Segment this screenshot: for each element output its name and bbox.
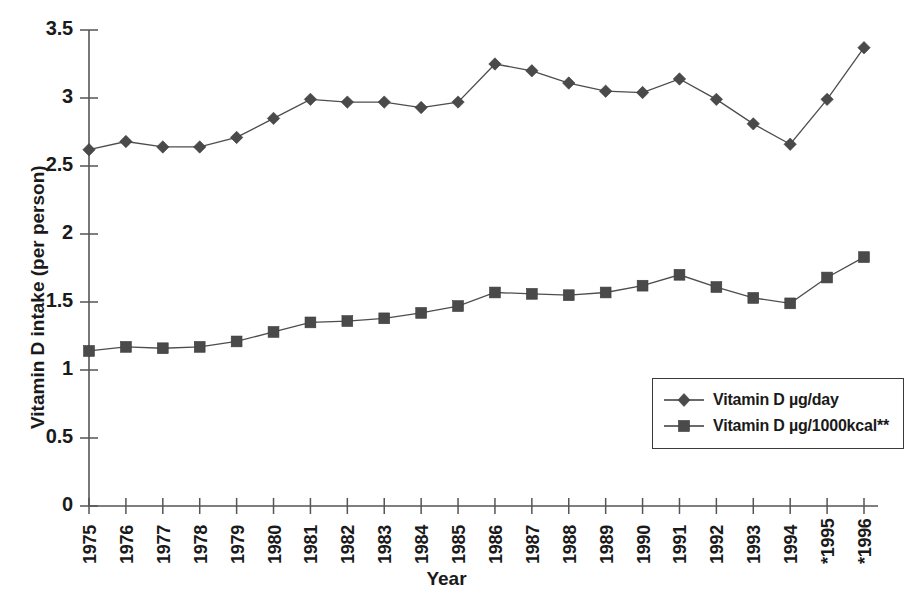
data-point-marker [157,343,168,354]
data-series [83,41,870,356]
data-point-marker [563,290,574,301]
data-point-marker [378,96,390,108]
data-point-marker [194,341,205,352]
data-point-marker [673,73,685,85]
data-point-marker [304,93,316,105]
x-tick-label: 1976 [117,525,138,564]
data-point-marker [267,112,279,124]
data-point-marker [83,143,95,155]
data-point-marker [120,135,132,147]
series-1 [83,41,870,155]
data-point-marker [84,346,95,357]
series-polyline [89,48,864,150]
x-tick-label: 1979 [228,525,249,564]
legend-item-vitamin-d-per-day: Vitamin D µg/day [663,387,889,413]
data-point-marker [342,316,353,327]
data-point-marker [526,288,537,299]
x-tick-label: 1985 [449,525,470,564]
data-point-marker [637,280,648,291]
legend-item-vitamin-d-per-1000kcal: Vitamin D µg/1000kcal** [663,413,889,439]
x-tick-label: 1975 [80,525,101,564]
x-tick-label: 1992 [707,525,728,564]
x-tick-label: 1978 [191,525,212,564]
x-tick-label: 1990 [634,525,655,564]
data-point-marker [747,118,759,130]
data-point-marker [230,131,242,143]
data-point-marker [490,287,501,298]
series-2 [84,252,870,357]
y-tick-label: 3.5 [0,17,73,40]
data-point-marker [600,287,611,298]
x-tick-label: 1991 [670,525,691,564]
x-tick-label: 1994 [781,525,802,564]
x-tick-label: 1980 [265,525,286,564]
data-point-marker [822,272,833,283]
data-point-marker [415,101,427,113]
data-point-marker [121,341,132,352]
x-tick-label: *1996 [855,518,876,564]
square-marker-icon [663,418,705,434]
data-point-marker [379,313,390,324]
data-point-marker [268,327,279,338]
data-point-marker [194,141,206,153]
x-axis-title: Year [0,568,893,590]
data-point-marker [599,85,611,97]
data-point-marker [526,65,538,77]
y-tick-label: 0 [0,493,73,516]
y-tick-label: 3 [0,85,73,108]
x-tick-label: 1986 [486,525,507,564]
data-point-marker [453,301,464,312]
x-tick-label: 1977 [154,525,175,564]
x-tick-label: 1988 [560,525,581,564]
x-tick-label: 1984 [412,525,433,564]
x-tick-label: 1982 [338,525,359,564]
data-point-marker [416,307,427,318]
data-point-marker [231,336,242,347]
y-axis-title: Vitamin D intake (per person) [27,169,49,429]
data-point-marker [748,293,759,304]
legend-label: Vitamin D µg/day [713,391,839,409]
data-point-marker [157,141,169,153]
x-tick-label: 1983 [375,525,396,564]
data-point-marker [341,96,353,108]
data-point-marker [674,269,685,280]
series-polyline [89,257,864,351]
chart-legend: Vitamin D µg/day Vitamin D µg/1000kcal** [652,378,904,449]
x-tick-label: 1989 [597,525,618,564]
x-tick-label: 1981 [301,525,322,564]
data-point-marker [711,282,722,293]
data-point-marker [305,317,316,328]
data-point-marker [785,298,796,309]
x-tick-label: *1995 [818,518,839,564]
legend-label: Vitamin D µg/1000kcal** [713,417,889,435]
data-point-marker [636,86,648,98]
data-point-marker [563,77,575,89]
data-point-marker [710,93,722,105]
data-point-marker [858,41,870,53]
x-tick-label: 1993 [744,525,765,564]
data-point-marker [859,252,870,263]
diamond-marker-icon [663,392,705,408]
x-tick-label: 1987 [523,525,544,564]
